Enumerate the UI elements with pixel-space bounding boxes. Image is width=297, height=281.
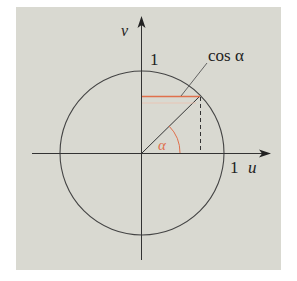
angle-label: α: [158, 137, 167, 153]
v-axis-label: v: [121, 22, 129, 39]
unit-label-u: 1: [230, 158, 239, 177]
unit-label-v: 1: [150, 50, 159, 69]
unit-circle-figure: v 1 cos α α 1 u: [0, 0, 297, 281]
cos-alpha-label: cos α: [208, 46, 244, 65]
u-axis-label: u: [248, 158, 257, 177]
